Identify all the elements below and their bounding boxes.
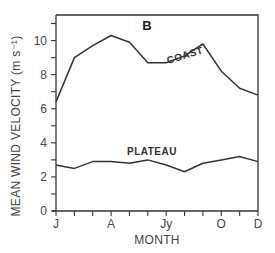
x-tick-label: J (53, 217, 59, 231)
y-tick-label: 4 (40, 136, 47, 150)
x-tick-label: A (107, 217, 115, 231)
x-axis-label: MONTH (134, 233, 180, 247)
panel-label: B (142, 18, 151, 33)
x-tick-label: Jy (160, 217, 172, 231)
plateau-series-label: PLATEAU (127, 146, 177, 157)
wind-velocity-chart: 0246810 JAJyOD B MONTH MEAN WIND VELOCIT… (0, 0, 275, 253)
x-tick-label: O (217, 217, 226, 231)
plot-border (56, 15, 258, 211)
coast-series-label: COAST (165, 44, 204, 65)
y-tick-label: 10 (34, 34, 48, 48)
plot-frame (52, 15, 258, 211)
y-axis-label: MEAN WIND VELOCITY (m s⁻¹) (9, 36, 23, 217)
x-axis-ticks: JAJyOD (53, 211, 263, 231)
series-line-coast (56, 36, 258, 102)
x-tick-label: D (254, 217, 263, 231)
series-line-plateau (56, 157, 258, 172)
y-tick-label: 0 (40, 204, 47, 218)
y-tick-label: 6 (40, 102, 47, 116)
y-axis-ticks: 0246810 (34, 24, 56, 218)
y-tick-label: 2 (40, 170, 47, 184)
y-tick-label: 8 (40, 68, 47, 82)
